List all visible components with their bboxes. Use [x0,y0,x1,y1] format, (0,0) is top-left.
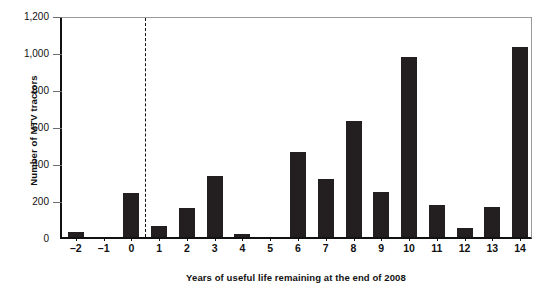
x-tick-label: 12 [451,242,479,254]
y-tick-mark [53,202,62,203]
x-tick-label: 2 [173,242,201,254]
y-tick-mark [53,165,62,166]
x-tick-mark [354,237,355,241]
x-tick-mark [326,237,327,241]
x-tick-label: 8 [340,242,368,254]
x-tick-label: 14 [506,242,534,254]
x-tick-label: 9 [367,242,395,254]
x-tick-label: –1 [90,242,118,254]
x-tick-label: 11 [423,242,451,254]
y-tick-label: 600 [32,122,49,133]
x-tick-label: 10 [395,242,423,254]
x-tick-label: 3 [201,242,229,254]
x-tick-mark [492,237,493,241]
y-tick-mark [53,128,62,129]
x-tick-label: 7 [312,242,340,254]
y-tick-mark [53,54,62,55]
x-tick-mark [437,237,438,241]
y-tick-label: 1,200 [24,11,49,22]
x-tick-mark [159,237,160,241]
y-tick-label: 800 [32,85,49,96]
x-tick-mark [242,237,243,241]
bar [429,205,445,237]
x-tick-mark [409,237,410,241]
bar [373,192,389,237]
plot-area: 02004006008001,0001,200 –2–1012345678910… [60,17,532,239]
x-tick-label: 6 [284,242,312,254]
bar [179,208,195,237]
x-tick-label: 13 [478,242,506,254]
x-tick-mark [520,237,521,241]
vertical-dashed-divider [145,18,146,237]
bar [457,228,473,237]
bar [401,57,417,237]
bar [123,193,139,237]
bar [151,226,167,237]
bar [484,207,500,237]
x-tick-label: 5 [256,242,284,254]
x-tick-label: 1 [145,242,173,254]
bar-chart-figure: Number of MTV tractors 02004006008001,00… [0,0,550,296]
bar [512,47,528,237]
x-tick-mark [76,237,77,241]
y-tick-mark [53,17,62,18]
y-tick-label: 0 [43,233,49,244]
bar [346,121,362,237]
x-tick-mark [465,237,466,241]
x-tick-mark [131,237,132,241]
x-tick-mark [187,237,188,241]
bar [318,179,334,237]
x-tick-label: –2 [62,242,90,254]
x-tick-mark [215,237,216,241]
y-tick-label: 1,000 [24,48,49,59]
x-axis-title: Years of useful life remaining at the en… [60,272,532,283]
y-tick-mark [53,91,62,92]
bar [207,176,223,237]
x-tick-mark [270,237,271,241]
x-tick-label: 0 [117,242,145,254]
x-tick-label: 4 [228,242,256,254]
y-tick-label: 200 [32,196,49,207]
y-tick-label: 400 [32,159,49,170]
bar [290,152,306,237]
x-tick-mark [104,237,105,241]
x-tick-mark [298,237,299,241]
x-tick-mark [381,237,382,241]
